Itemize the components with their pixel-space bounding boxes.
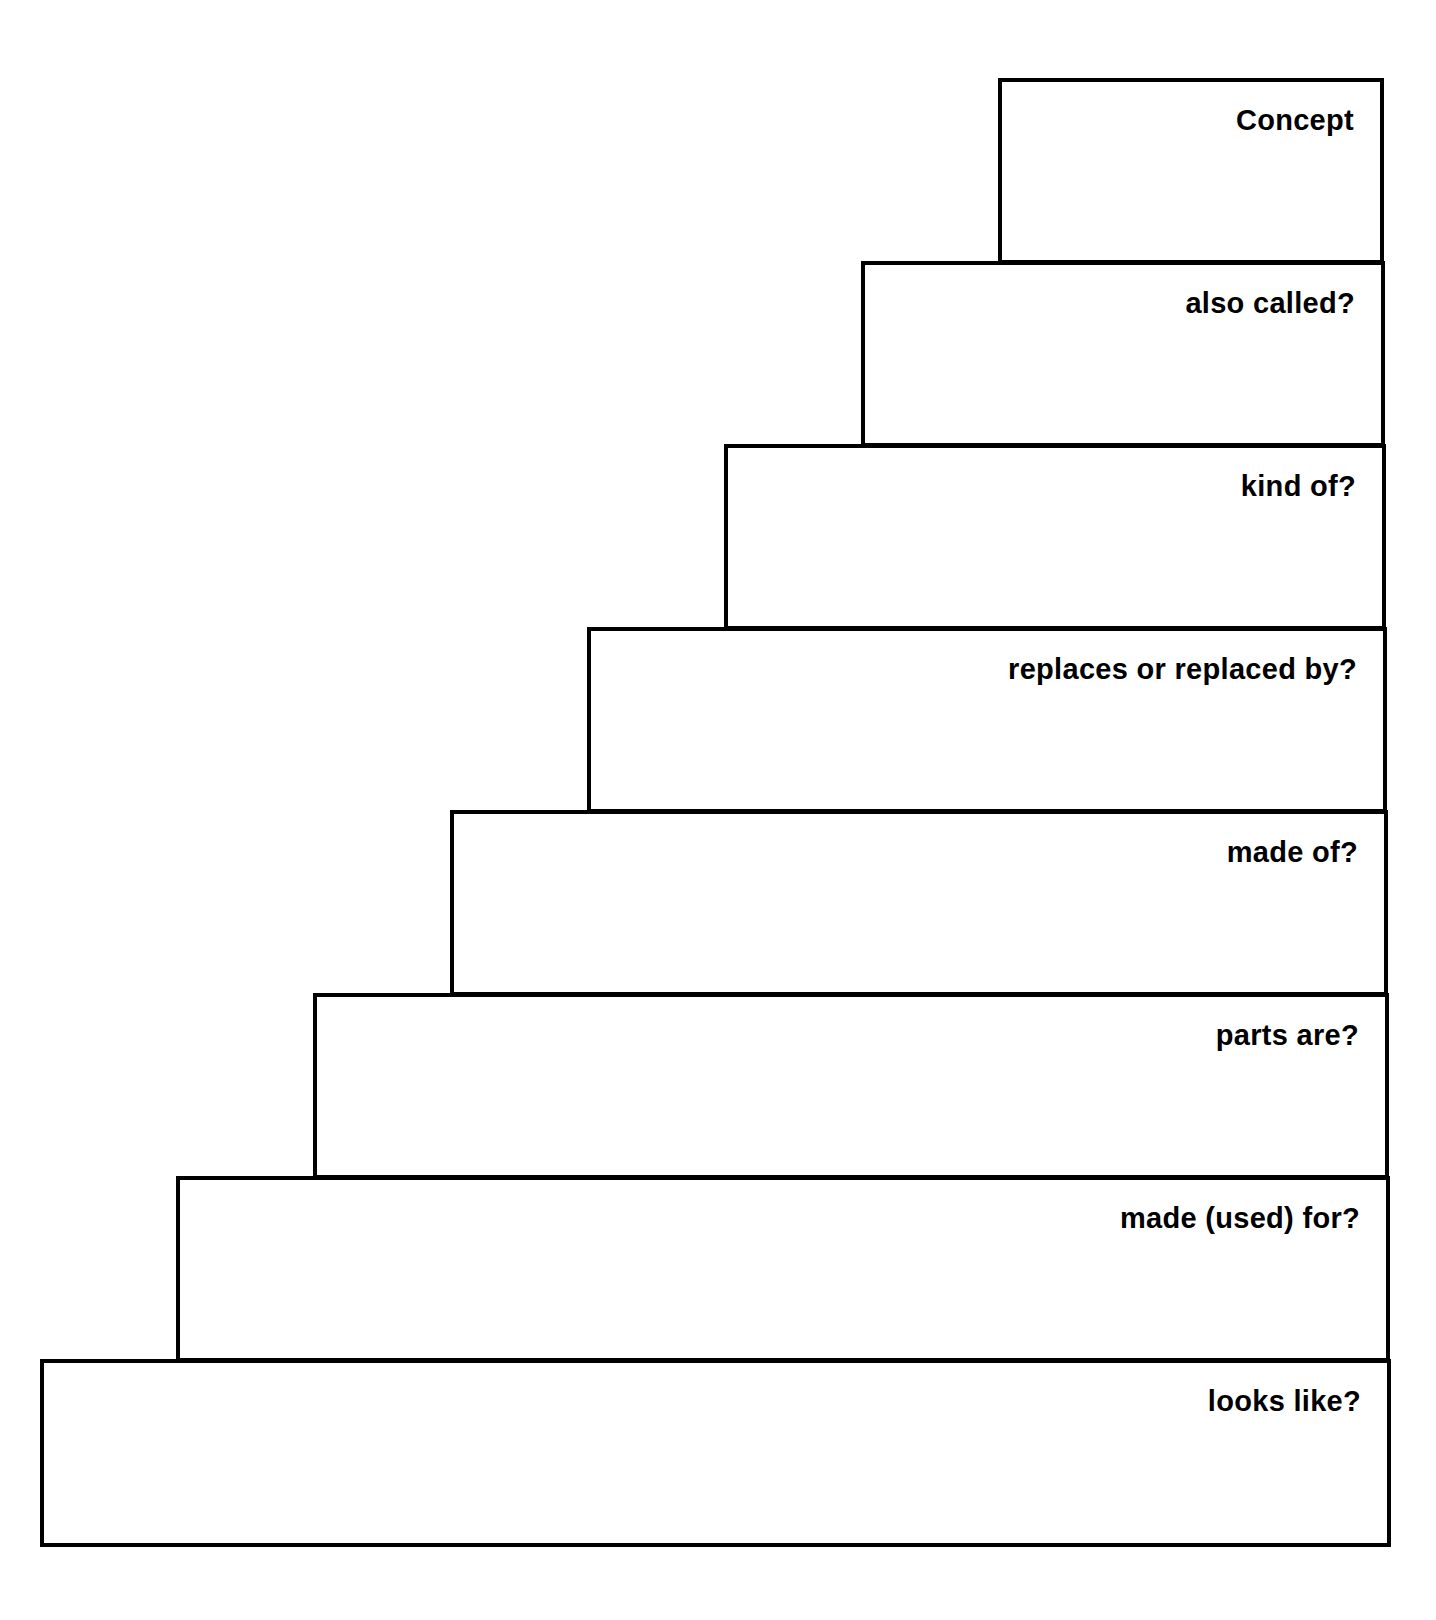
- step-label: parts are?: [1216, 1019, 1359, 1052]
- step-also-called: also called?: [861, 261, 1385, 447]
- step-label: looks like?: [1208, 1385, 1361, 1418]
- step-label: kind of?: [1241, 470, 1356, 503]
- step-label: replaces or replaced by?: [1008, 653, 1357, 686]
- step-label: Concept: [1236, 104, 1354, 137]
- step-concept: Concept: [998, 78, 1384, 264]
- step-looks-like: looks like?: [40, 1359, 1391, 1547]
- step-label: also called?: [1185, 287, 1355, 320]
- step-label: made of?: [1227, 836, 1358, 869]
- step-label: made (used) for?: [1120, 1202, 1360, 1235]
- step-parts-are: parts are?: [313, 993, 1389, 1179]
- step-replaces: replaces or replaced by?: [587, 627, 1387, 813]
- step-made-used-for: made (used) for?: [176, 1176, 1390, 1362]
- step-made-of: made of?: [450, 810, 1388, 996]
- step-kind-of: kind of?: [724, 444, 1386, 630]
